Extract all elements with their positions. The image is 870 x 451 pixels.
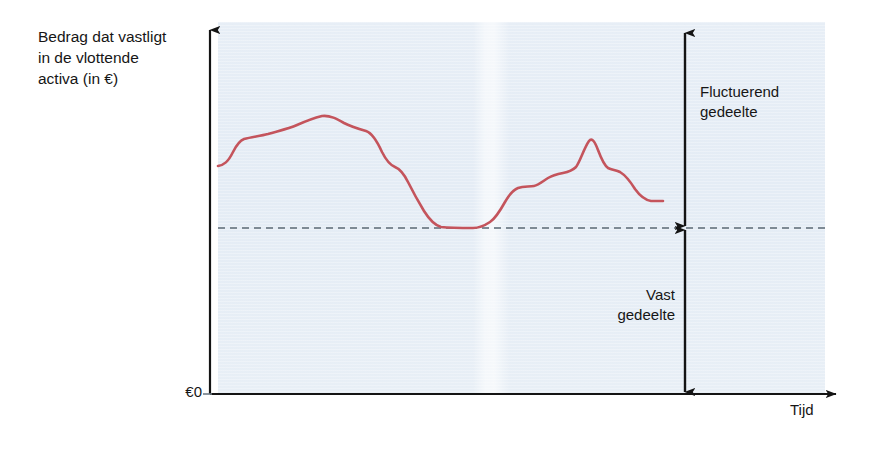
chart-figure: Bedrag dat vastligt in de vlottende acti… bbox=[0, 0, 870, 451]
data-series-line bbox=[218, 116, 663, 228]
chart-vector-layer bbox=[0, 0, 870, 451]
